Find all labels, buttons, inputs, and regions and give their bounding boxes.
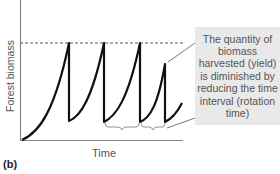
rotation-brace-2 (141, 123, 165, 130)
y-axis-label: Forest biomass (4, 36, 16, 116)
callout-leader-top (168, 43, 195, 62)
callout-leader-bottom (167, 118, 195, 128)
x-axis-label: Time (92, 147, 116, 159)
callout-box: The quantity of biomass harvested (yield… (195, 27, 280, 125)
rotation-brace-1 (105, 123, 139, 130)
callout-text: The quantity of biomass harvested (yield… (197, 33, 278, 120)
biomass-curve (22, 43, 182, 140)
panel-label: (b) (3, 158, 17, 170)
